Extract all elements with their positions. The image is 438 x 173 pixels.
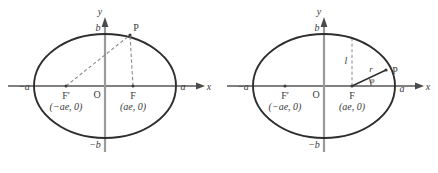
focus-right-label: F [130,90,136,101]
x-axis-label: x [206,81,212,92]
point-p-label: P [133,22,139,33]
ellipse-focal-chord-svg: x y −a a b −b O F′ (−ae, 0) F (ae, 0) P … [219,0,438,173]
vertex-left-label: −a [237,81,249,92]
focus-right-dot [351,85,354,88]
x-axis-arrow [196,82,205,89]
covertex-top-label: b [96,22,101,33]
vertex-right-label: a [400,83,405,94]
angle-label: φ [370,75,375,85]
focus-left-dot [284,85,287,88]
focus-right-dot [132,85,135,88]
vertex-left-label: −a [18,81,30,92]
vertex-right-label: a [181,81,186,92]
origin-label: O [312,89,319,100]
point-p-label: P [392,65,398,76]
focus-left-label: F′ [281,90,289,101]
covertex-top-label: b [315,22,320,33]
figure-page: x y −a a b −b O F′ (−ae, 0) F (ae, 0) P [0,0,438,173]
semi-latus-rectum-label: l [345,55,348,66]
ellipse-two-foci-svg: x y −a a b −b O F′ (−ae, 0) F (ae, 0) P [0,0,219,173]
covertex-bottom-label: −b [89,139,101,150]
y-axis-label: y [97,6,103,17]
figure-ellipse-two-foci: x y −a a b −b O F′ (−ae, 0) F (ae, 0) P [0,0,219,173]
focus-left-dot [65,85,68,88]
focus-left-label: F′ [62,90,70,101]
x-axis-label: x [425,81,431,92]
focus-right-label: F [349,90,355,101]
y-axis-arrow [321,17,328,27]
focus-left-coords-label: (−ae, 0) [269,101,303,113]
figure-ellipse-focal-chord: x y −a a b −b O F′ (−ae, 0) F (ae, 0) P … [219,0,438,173]
radius-label: r [369,64,373,74]
point-p-dot [128,33,131,36]
focus-left-coords-label: (−ae, 0) [50,101,84,113]
covertex-bottom-label: −b [308,139,320,150]
point-p-dot [384,68,387,71]
y-axis-arrow [102,17,109,27]
x-axis-arrow [415,82,424,89]
focus-right-coords-label: (ae, 0) [339,101,366,113]
focal-radius-left-segment [66,35,130,86]
focal-radius-right-segment [130,35,133,86]
origin-label: O [93,89,100,100]
y-axis-label: y [316,6,322,17]
focus-right-coords-label: (ae, 0) [120,101,147,113]
